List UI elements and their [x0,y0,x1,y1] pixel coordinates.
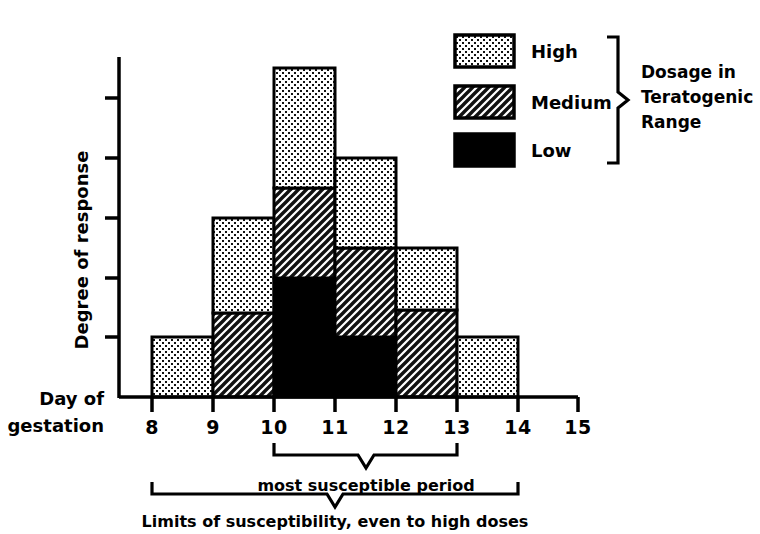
x-tick-label: 8 [145,416,159,438]
bar-segment-medium [396,310,457,397]
annotation-braces: most susceptible period Limits of suscep… [142,443,529,531]
bar-segment-high [152,337,213,397]
figure-root: 8 9 10 11 12 13 14 15 Degree of response… [0,0,760,534]
legend-brace-line1: Dosage in [641,62,736,82]
x-tick-label: 14 [504,416,531,438]
bar-segment-high [335,158,396,248]
most-susceptible-label: most susceptible period [257,476,474,495]
teratogenic-response-chart: 8 9 10 11 12 13 14 15 Degree of response… [0,0,760,534]
bar-day-12 [396,248,457,397]
bar-day-10 [274,68,335,397]
x-axis-tick-labels: 8 9 10 11 12 13 14 15 [145,416,592,438]
bar-segment-high [274,68,335,188]
x-axis-ticks [152,397,578,412]
legend-label-high: High [531,41,578,62]
bar-segment-medium [274,188,335,278]
bar-segment-medium [213,313,274,397]
x-tick-label: 15 [564,416,591,438]
y-axis-title: Degree of response [71,151,92,350]
legend: High Medium Low Dosage in Teratogenic Ra… [455,35,753,166]
legend-brace-line3: Range [641,112,701,132]
legend-label-medium: Medium [531,92,612,113]
most-susceptible-brace [274,443,457,468]
bar-segment-high [213,218,274,313]
x-tick-label: 13 [443,416,470,438]
legend-brace-line2: Teratogenic [641,87,753,107]
y-axis-ticks [105,98,119,337]
bar-segment-high [457,337,518,397]
x-axis-title-line1: Day of [39,388,104,409]
bar-day-11 [335,158,396,397]
x-tick-label: 9 [206,416,220,438]
x-tick-label: 12 [382,416,409,438]
bar-day-13 [457,337,518,397]
bar-segment-low [274,278,335,397]
bar-day-9 [213,218,274,397]
limits-of-susceptibility-label: Limits of susceptibility, even to high d… [142,512,529,531]
bar-day-8 [152,337,213,397]
x-tick-label: 11 [321,416,348,438]
bar-segment-high [396,248,457,310]
bar-segment-medium [335,248,396,337]
legend-swatch-medium [455,86,514,118]
legend-swatch-high [455,35,514,67]
bar-segment-low [335,337,396,397]
x-tick-label: 10 [260,416,287,438]
x-axis-title-line2: gestation [7,415,104,436]
legend-label-low: Low [531,140,571,161]
legend-swatch-low [455,134,514,166]
